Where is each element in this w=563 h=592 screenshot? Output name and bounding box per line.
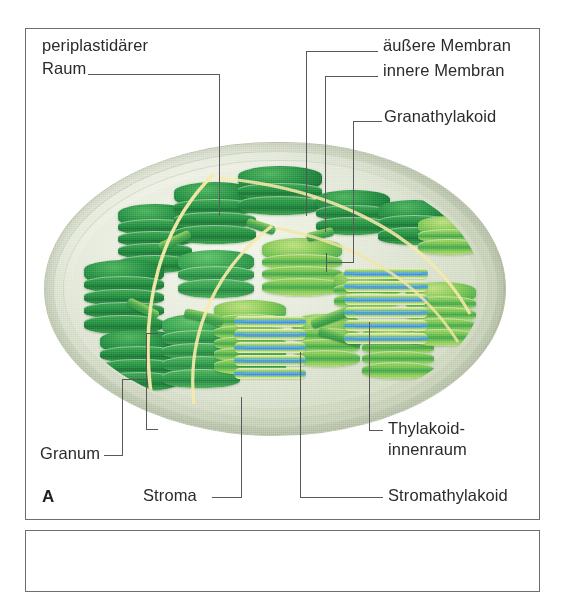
label-periplastidic-space-line1: periplastidärer [42,36,148,55]
leader-outer-membrane-h [306,51,378,52]
label-thylakoid-lumen-line1: Thylakoid- [388,419,465,438]
leader-thylakoid-lumen-v [369,322,370,431]
leader-granum-bracket-top [146,333,158,334]
label-periplastidic-space-line2: Raum [42,59,86,78]
leader-granum-h2 [122,379,147,380]
label-thylakoid-lumen-line2: innenraum [388,440,467,459]
label-stroma: Stroma [143,486,197,505]
leader-grana-thylakoid-h [353,121,382,122]
leader-inner-membrane-h [325,76,378,77]
leader-thylakoid-lumen-h [369,430,383,431]
leader-inner-membrane-v [325,76,326,232]
leader-periplastidic-h [88,74,220,75]
leader-grana-thylakoid-v [353,121,354,263]
leader-periplastidic-v [219,74,220,216]
figure-letter: A [42,487,54,507]
label-granum: Granum [40,444,100,463]
label-outer-membrane: äußere Membran [383,36,511,55]
chloroplast-illustration [44,138,504,438]
leader-granum-bracket [146,333,147,430]
leader-stroma-v [241,397,242,498]
leader-stroma-thylakoid-v [300,352,301,498]
leader-grana-thylakoid-tick [326,262,354,263]
leader-granum-v [122,379,123,456]
leader-outer-membrane-v [306,51,307,216]
label-grana-thylakoid: Granathylakoid [384,107,496,126]
chloroplast-interior [66,164,482,414]
leader-grana-thylakoid-bracket [326,253,327,272]
leader-stroma-h [212,497,242,498]
figure-panel-b [25,530,540,592]
leader-granum-h [104,455,123,456]
leader-granum-bracket-bottom [146,429,158,430]
leader-stroma-thylakoid-h [300,497,383,498]
label-inner-membrane: innere Membran [383,61,505,80]
label-stroma-thylakoid: Stromathylakoid [388,486,508,505]
